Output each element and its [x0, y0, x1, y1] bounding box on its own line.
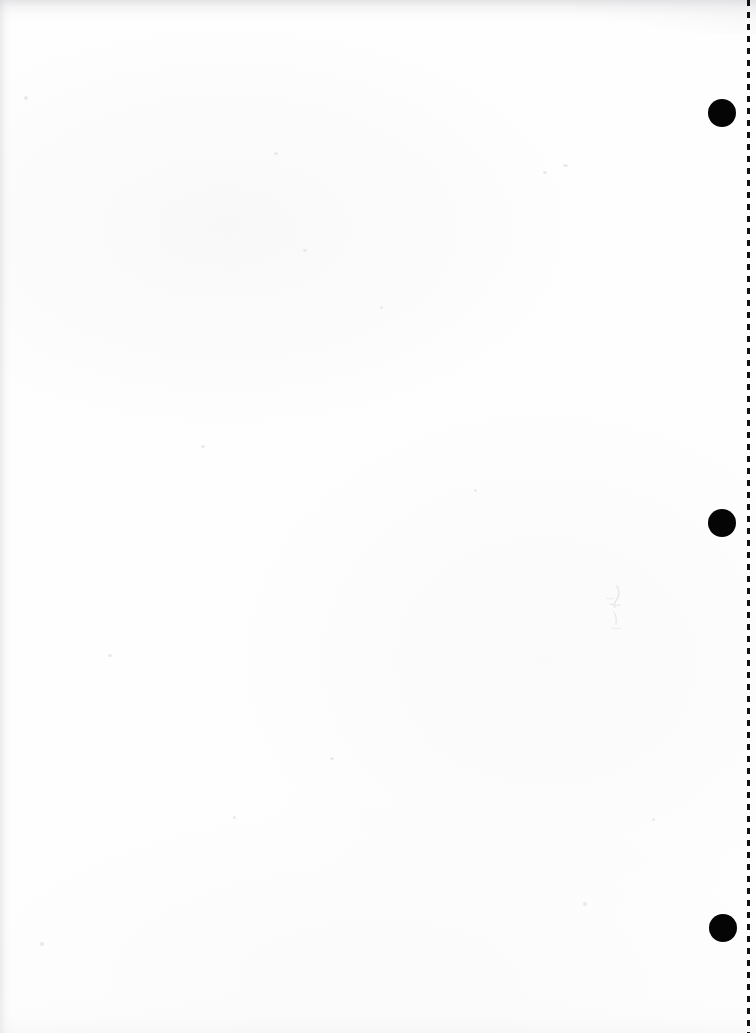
- punch-dot-middle: [708, 509, 736, 537]
- paper-speck: [474, 489, 477, 492]
- paper-speck: [563, 164, 568, 167]
- dashed-margin-line-svg: [747, 0, 750, 1033]
- paper-speck: [201, 445, 205, 448]
- page-left-edge-shadow: [0, 0, 15, 1033]
- faint-pencil-smudge: [604, 584, 632, 634]
- page-top-right-corner-shadow: [576, 0, 756, 34]
- paper-speck: [233, 816, 236, 819]
- dashed-margin-line: [747, 0, 750, 1033]
- paper-speck: [274, 152, 278, 155]
- page-top-edge-shadow: [0, 0, 756, 24]
- paper-speck: [652, 818, 655, 821]
- paper-speck: [303, 249, 307, 252]
- paper-speck: [583, 902, 587, 906]
- paper-speck: [24, 96, 28, 100]
- paper-speck: [543, 171, 547, 174]
- page-bottom-edge-shadow: [0, 993, 756, 1033]
- scanned-page-canvas: [0, 0, 756, 1033]
- punch-dot-top: [708, 99, 736, 127]
- paper-speck: [108, 654, 112, 657]
- paper-speck: [40, 942, 44, 946]
- paper-speck: [380, 306, 383, 309]
- paper-speck: [330, 757, 334, 760]
- punch-dot-bottom: [709, 914, 737, 942]
